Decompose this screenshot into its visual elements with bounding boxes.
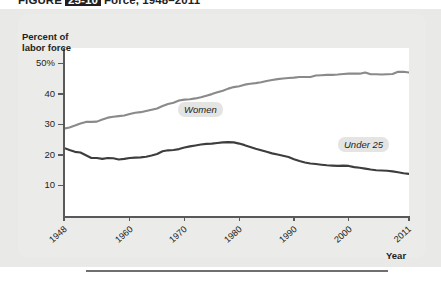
y-axis-title-line1: Percent of	[22, 32, 71, 43]
x-tick-mark	[129, 216, 130, 221]
y-tick-mark	[58, 185, 63, 186]
figure-title-label: FIGURE	[18, 0, 62, 6]
y-tick-label: 10	[44, 179, 55, 190]
y-tick-label: 20	[44, 149, 55, 160]
y-axis-line	[63, 48, 65, 218]
x-axis-title: Year	[386, 250, 406, 261]
y-tick-label: 30	[44, 118, 55, 129]
y-tick-mark	[58, 124, 63, 125]
figure-title: FIGURE25-10Force, 1948–2011	[18, 0, 200, 6]
y-tick-mark	[58, 93, 63, 94]
figure-title-text: Force, 1948–2011	[104, 0, 200, 6]
x-tick-mark	[239, 216, 240, 221]
series-label-under-25: Under 25	[338, 137, 389, 152]
y-tick-label: 40	[44, 88, 55, 99]
y-axis-title-line2: labor force	[22, 43, 71, 54]
series-label-women: Women	[178, 102, 223, 117]
chart-svg	[64, 48, 409, 216]
figure-number-badge: 25-10	[65, 0, 101, 6]
bottom-divider	[86, 270, 388, 272]
y-tick-mark	[58, 154, 63, 155]
series-line-women	[64, 72, 409, 129]
x-tick-mark	[63, 216, 64, 221]
y-tick-mark	[58, 63, 63, 64]
x-axis-line	[63, 216, 410, 218]
x-tick-mark	[184, 216, 185, 221]
x-tick-mark	[348, 216, 349, 221]
y-axis-title: Percent of labor force	[22, 32, 71, 53]
x-tick-mark	[408, 216, 409, 221]
plot-area	[64, 48, 409, 216]
x-tick-mark	[293, 216, 294, 221]
y-tick-label: 50%	[36, 57, 55, 68]
